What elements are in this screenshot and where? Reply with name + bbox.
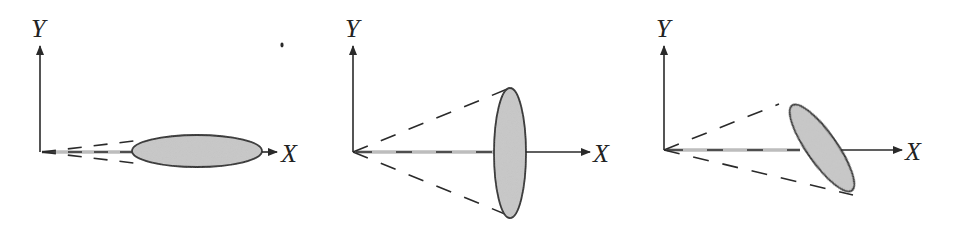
panel-1: Y X [31,14,298,168]
disc-ellipse [132,135,262,167]
cone-line-upper [353,88,510,152]
x-axis-label: X [904,137,922,166]
disc-ellipse [780,97,864,199]
y-axis-label: Y [656,14,673,43]
x-axis-label: X [592,139,610,168]
disc-ellipse [494,88,526,218]
y-axis-label: Y [31,14,48,43]
panel-2: Y X [345,14,610,218]
panel-3: Y X [656,14,922,199]
cone-line-upper [664,104,779,150]
stray-dot [280,43,283,48]
cone-line-lower [353,152,510,216]
x-axis-label: X [280,139,298,168]
ellipse-orientation-diagram: Y X Y X Y X [0,0,962,230]
y-axis-label: Y [345,14,362,43]
